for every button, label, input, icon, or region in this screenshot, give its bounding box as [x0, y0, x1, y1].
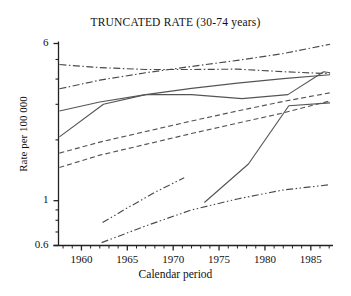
series-7-dashdotdot-short — [103, 178, 185, 223]
y-tick-label: 0.6 — [23, 238, 49, 250]
series-layer — [59, 44, 330, 242]
series-2-dashdot-rising — [59, 44, 330, 89]
x-tick-label: 1970 — [153, 253, 193, 265]
x-tick-label: 1975 — [199, 253, 239, 265]
x-tick-label: 1985 — [291, 253, 331, 265]
series-4-solid-plateau — [59, 72, 330, 137]
y-tick-label: 1 — [23, 193, 49, 205]
y-tick-label: 6 — [23, 36, 49, 48]
chart-figure: TRUNCATED RATE (30-74 years) Rate per 10… — [0, 0, 351, 296]
x-tick-label: 1980 — [245, 253, 285, 265]
series-6-dashed-lower — [59, 101, 330, 168]
series-9-solid-steep — [204, 103, 330, 203]
x-tick-label: 1965 — [107, 253, 147, 265]
x-tick-label: 1960 — [61, 253, 101, 265]
axes-layer — [54, 42, 334, 251]
series-8-dashdotdot-long — [102, 185, 330, 243]
